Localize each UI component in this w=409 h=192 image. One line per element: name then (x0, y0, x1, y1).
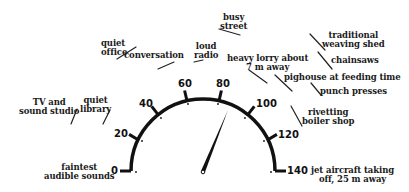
label-pighouse: pighouse at feeding time (284, 73, 401, 82)
tick-label-100: 100 (256, 99, 277, 109)
label-busy-street: busy street (220, 13, 247, 31)
tick-label-60: 60 (178, 79, 192, 89)
label-conversation: conversation (124, 51, 184, 60)
label-loud-radio: loud radio (194, 42, 218, 60)
label-punch-presses: punch presses (320, 87, 387, 96)
tick-label-20: 20 (114, 129, 128, 139)
tick-label-80: 80 (216, 79, 230, 89)
label-tv-sound-studio: TV and sound studio (19, 98, 79, 116)
label-weaving-shed: traditional weaving shed (322, 31, 385, 49)
decibel-gauge-diagram: 0 20 40 60 80 100 120 140 faintest audib… (0, 0, 409, 192)
gauge-needle (201, 110, 228, 174)
label-jet-aircraft: jet aircraft taking off, 25 m away (311, 166, 394, 184)
label-heavy-lorry: heavy lorry about 7 m away (227, 54, 308, 72)
label-quiet-library: quiet library (80, 96, 111, 114)
tick-label-140: 140 (287, 166, 308, 176)
label-rivetting-boiler: rivetting boiler shop (302, 108, 354, 126)
label-faintest-audible: faintest audible sounds (44, 163, 115, 181)
tick-label-40: 40 (139, 99, 153, 109)
tick-label-120: 120 (278, 130, 299, 140)
label-chainsaws: chainsaws (331, 56, 379, 65)
